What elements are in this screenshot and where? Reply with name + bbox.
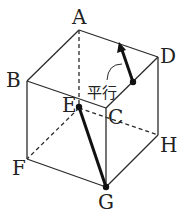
segment-EG bbox=[79, 107, 106, 187]
label-B: B bbox=[6, 68, 21, 92]
vector-start-dot bbox=[130, 79, 136, 85]
edge-FG bbox=[27, 159, 106, 187]
edge-AD bbox=[79, 30, 158, 57]
label-E: E bbox=[62, 93, 77, 117]
label-F: F bbox=[12, 156, 26, 180]
label-C: C bbox=[108, 105, 123, 129]
label-G: G bbox=[98, 190, 114, 214]
parallel-vector bbox=[122, 50, 133, 82]
label-D: D bbox=[160, 44, 176, 68]
cube-diagram: A B C D E F G H 平行 bbox=[0, 0, 184, 217]
edge-GH bbox=[106, 135, 158, 187]
parallel-annotation: 平行 bbox=[87, 84, 117, 102]
label-H: H bbox=[160, 133, 177, 157]
callout-curve bbox=[107, 64, 122, 80]
point-E-dot bbox=[76, 104, 82, 110]
edge-AB bbox=[27, 30, 79, 81]
label-A: A bbox=[71, 5, 87, 29]
